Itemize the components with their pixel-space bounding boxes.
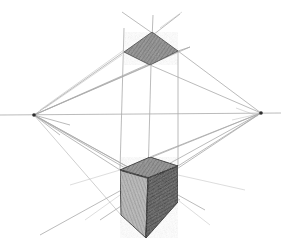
left-vanishing-point [32,113,36,117]
cube [120,157,178,238]
perspective-sketch: Two-point perspective pencil sketch of a… [0,0,281,249]
sketchy-strokes [40,12,258,120]
sketch-canvas [0,0,281,249]
horizon-line [0,113,281,115]
right-vanishing-point [259,111,263,115]
vertical-left [120,28,124,170]
cube-left-face [120,170,148,238]
projected-top-face [124,32,178,65]
